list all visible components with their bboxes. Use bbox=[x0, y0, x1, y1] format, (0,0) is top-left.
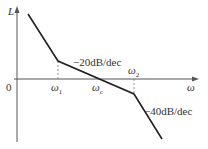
slope-label-20: −20dB/dec bbox=[73, 57, 121, 68]
omega1-label: ω1 bbox=[51, 82, 62, 96]
origin-label: 0 bbox=[6, 82, 12, 93]
slope-label-40: −40dB/dec bbox=[144, 106, 192, 117]
omegac-label: ωc bbox=[92, 82, 103, 96]
bode-plot bbox=[0, 0, 208, 149]
omega2-label: ω2 bbox=[128, 65, 139, 79]
x-axis-label: ω bbox=[187, 82, 195, 93]
magnitude-curve bbox=[28, 14, 162, 139]
y-axis-arrow-icon bbox=[15, 6, 20, 13]
y-axis-label: L bbox=[8, 6, 14, 17]
